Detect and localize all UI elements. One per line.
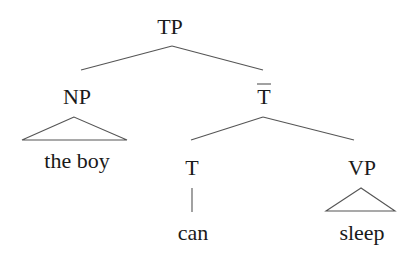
branch-tp-tbar	[172, 46, 263, 70]
branch-tbar-t	[191, 117, 263, 140]
node-vp: VP	[348, 155, 376, 180]
branch-tbar-vp	[263, 117, 354, 140]
node-np: NP	[63, 84, 91, 109]
node-t: T	[185, 155, 199, 180]
leaf-the-boy: the boy	[44, 148, 109, 173]
leaf-can: can	[178, 220, 209, 245]
node-tp: TP	[157, 14, 183, 39]
branch-tp-np	[81, 46, 172, 70]
syntax-tree: TP NP the boy T T can VP sleep	[0, 0, 414, 257]
leaf-sleep: sleep	[339, 220, 384, 245]
node-tbar: T	[257, 84, 271, 109]
vp-triangle	[326, 188, 395, 211]
np-triangle	[22, 117, 127, 140]
